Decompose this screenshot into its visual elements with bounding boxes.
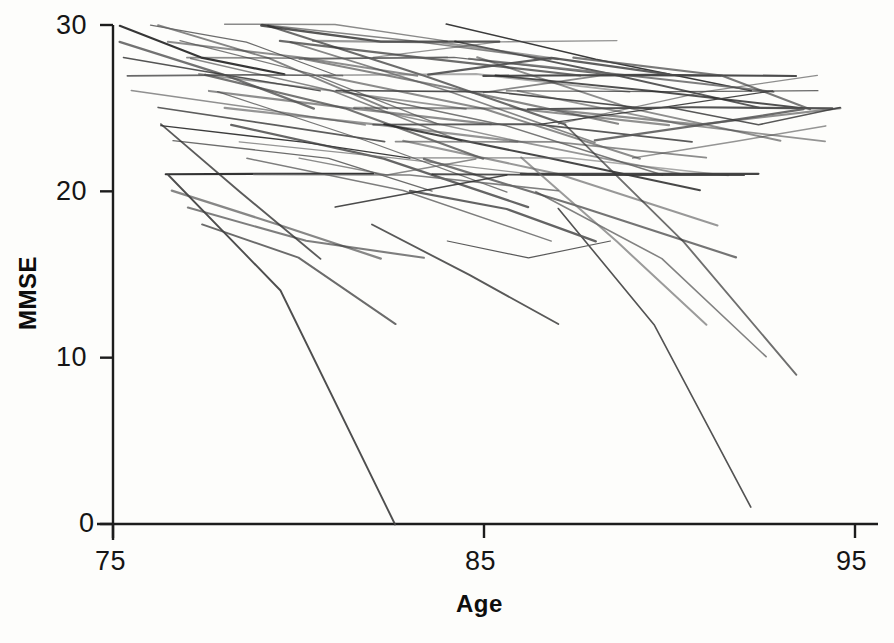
subject-trajectory (205, 75, 483, 159)
y-tick-label-30: 30 (56, 10, 87, 41)
subject-trajectory (565, 125, 796, 375)
subject-trajectory (446, 24, 751, 91)
y-tick-label-0: 0 (79, 508, 95, 539)
y-axis-title: MMSE (14, 256, 42, 330)
x-tick-label-85: 85 (465, 546, 496, 577)
spaghetti-plot-canvas (0, 0, 894, 643)
subject-trajectory (180, 41, 440, 125)
subject-trajectory (372, 225, 558, 325)
x-axis-title: Age (456, 590, 503, 618)
subject-trajectory (447, 241, 610, 258)
x-tick-label-95: 95 (836, 546, 867, 577)
figure-panel: 30 20 10 0 75 85 95 Age MMSE (0, 0, 894, 643)
subject-trajectory (191, 59, 462, 142)
subject-trajectory (521, 158, 706, 325)
x-tick-label-75: 75 (95, 546, 126, 577)
y-tick-label-20: 20 (56, 176, 87, 207)
series-layer (120, 24, 841, 524)
y-tick-label-10: 10 (56, 342, 87, 373)
